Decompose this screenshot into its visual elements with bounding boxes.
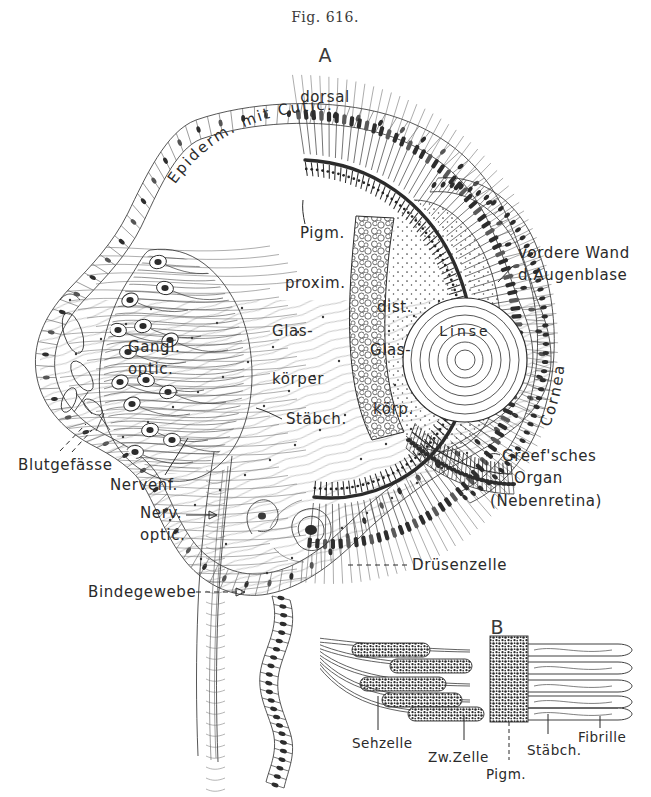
label-distal-vitreous-line2: körp.	[373, 400, 414, 418]
label-b-rod: Stäbch.	[527, 742, 581, 758]
label-optic-nerve-line2: optic.	[140, 526, 185, 544]
label-vitreous-line1: Glas-	[272, 322, 313, 340]
label-ganglion-line2: optic.	[128, 360, 173, 378]
panel-label-b: B	[490, 616, 503, 638]
label-b-intermediate-cell: Zw.Zelle	[428, 749, 489, 765]
label-anterior-wall-line1: vordere Wand	[518, 244, 630, 262]
label-ganglion-line1: Gangl.	[128, 338, 180, 356]
label-proximal: proxim.	[285, 274, 346, 292]
label-greef-line1: Greef'sches	[502, 447, 597, 465]
label-greef-line2: Organ	[514, 469, 563, 487]
label-nerve-fibers: Nervenf.	[110, 476, 178, 494]
anatomical-illustration: Fig. 616. A B dorsal	[0, 0, 651, 797]
panel-b-pigment-band	[490, 636, 528, 722]
label-connective-tissue: Bindegewebe	[88, 583, 196, 601]
label-rods: Stäbch.	[286, 410, 347, 428]
label-gland-cell: Drüsenzelle	[412, 556, 507, 574]
label-b-visual-cell: Sehzelle	[352, 735, 413, 751]
label-greef-line3: (Nebenretina)	[490, 492, 602, 510]
label-pigment: Pigm.	[300, 224, 345, 242]
lens	[403, 298, 527, 422]
label-distal: dist.	[377, 298, 412, 316]
label-anterior-wall-line2: d.Augenblase	[518, 266, 627, 284]
label-b-fibril: Fibrille	[578, 729, 626, 745]
label-b-pigment: Pigm.	[486, 766, 526, 782]
label-optic-nerve-line1: Nerv.	[140, 504, 182, 522]
panel-label-a: A	[319, 44, 332, 66]
label-lens: Linse	[439, 323, 490, 339]
figure-caption: Fig. 616.	[291, 9, 359, 25]
figure-plate: Fig. 616. A B dorsal	[0, 0, 651, 797]
label-blood-vessels: Blutgefässe	[18, 456, 113, 474]
label-vitreous-line2: körper	[272, 370, 324, 388]
label-distal-vitreous-line1: Glas-	[370, 341, 411, 359]
